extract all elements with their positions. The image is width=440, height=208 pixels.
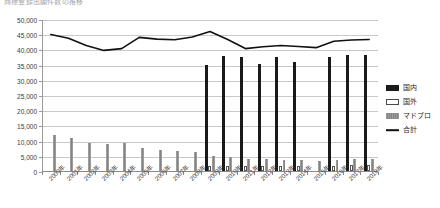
x-axis-tick	[42, 172, 43, 175]
legend-item-label: マドプロ	[403, 112, 431, 120]
y-axis-tick-label: 20,000	[17, 108, 37, 115]
legend-item-madopro[interactable]: マドプロ	[386, 112, 431, 120]
chart-title: 商標登録出願件数の推移	[4, 0, 83, 6]
y-axis-line	[42, 20, 43, 172]
legend-item-total[interactable]: 合計	[386, 126, 431, 134]
legend-swatch-icon	[386, 85, 399, 91]
plot-area: 05,00010,00015,00020,00025,00030,00035,0…	[42, 20, 378, 172]
legend-item-label: 合計	[403, 126, 417, 134]
legend-item-foreign[interactable]: 国外	[386, 98, 431, 106]
legend-item-label: 国内	[403, 84, 417, 92]
chart-legend: 国内国外マドプロ合計	[386, 84, 431, 134]
y-axis-tick-label: 10,000	[17, 138, 37, 145]
y-axis-tick-label: 25,000	[17, 93, 37, 100]
y-axis-tick-label: 45,000	[17, 32, 37, 39]
legend-swatch-icon	[386, 113, 399, 119]
legend-swatch-icon	[386, 127, 399, 133]
total-line-series	[42, 20, 378, 172]
y-axis-tick-label: 5,000	[21, 153, 37, 160]
chart-root: 商標登録出願件数の推移 05,00010,00015,00020,00025,0…	[0, 0, 440, 208]
legend-item-label: 国外	[403, 98, 417, 106]
y-axis-tick-label: 15,000	[17, 123, 37, 130]
y-axis-tick-label: 50,000	[17, 17, 37, 24]
y-axis-tick-label: 35,000	[17, 62, 37, 69]
y-axis-tick-label: 30,000	[17, 77, 37, 84]
legend-swatch-icon	[386, 99, 399, 105]
total-line-path	[51, 32, 369, 51]
legend-item-domestic[interactable]: 国内	[386, 84, 431, 92]
y-axis-tick-label: 40,000	[17, 47, 37, 54]
y-axis-tick-label: 0	[33, 169, 37, 176]
